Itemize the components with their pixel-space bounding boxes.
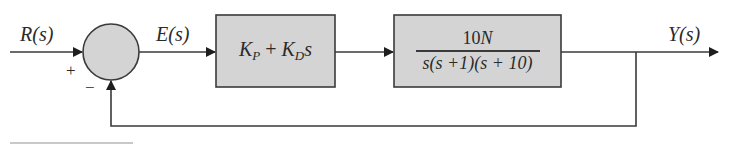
input-signal-label: R(s) (20, 24, 53, 44)
output-signal-label: Y(s) (668, 24, 700, 44)
denominator: s(s +1)(s + 10) (423, 52, 533, 73)
kd-subscript: D (295, 48, 304, 63)
kp-symbol: K (239, 38, 252, 60)
block-diagram-canvas (0, 0, 733, 144)
plus-operator: + (260, 38, 281, 60)
summing-junction (83, 24, 139, 80)
controller-transfer-function: KP+KDs (216, 15, 335, 87)
kd-variable: s (304, 38, 312, 60)
numerator-coefficient: 10 (462, 28, 480, 48)
numerator-variable: N (480, 28, 492, 48)
error-signal-label: E(s) (156, 24, 189, 44)
plus-sign: + (66, 62, 76, 79)
minus-sign: − (85, 79, 95, 96)
kd-symbol: K (282, 38, 295, 60)
plant-transfer-function: 10N s(s +1)(s + 10) (394, 15, 561, 87)
